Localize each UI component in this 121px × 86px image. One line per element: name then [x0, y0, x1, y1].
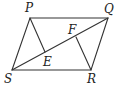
label-s: S: [4, 72, 12, 86]
label-f: F: [67, 23, 77, 37]
label-r: R: [86, 72, 96, 86]
segment-rf: [76, 37, 91, 70]
label-e: E: [42, 55, 52, 69]
label-q: Q: [104, 2, 114, 16]
segment-pe: [30, 18, 45, 52]
label-p: P: [24, 1, 34, 15]
parallelogram-diagram: P Q F E S R: [0, 0, 121, 86]
